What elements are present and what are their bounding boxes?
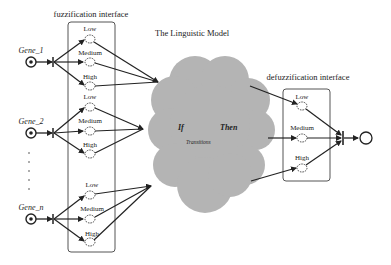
output-low-label: Low bbox=[296, 93, 310, 101]
linguistic-model-cloud: The Linguistic Model If Then Transitions bbox=[148, 28, 275, 213]
output-node bbox=[360, 132, 372, 144]
gene-1-low-node bbox=[85, 35, 95, 43]
model-label: The Linguistic Model bbox=[155, 28, 230, 38]
gene-1-medium-node bbox=[85, 58, 95, 66]
output-high-node bbox=[297, 164, 307, 172]
gene-ellipsis bbox=[28, 152, 30, 190]
gene-2-high-node bbox=[85, 150, 95, 158]
gene-n-low-node bbox=[85, 191, 95, 199]
defuzzification-nodes: Low Medium High bbox=[290, 93, 372, 172]
output-low-node bbox=[297, 102, 307, 110]
transitions-label: Transitions bbox=[186, 139, 211, 145]
gene-2-high-label: High bbox=[83, 141, 98, 149]
gene-n-group: Gene_n Low Medium High bbox=[19, 181, 151, 246]
gene-n-low-label: Low bbox=[86, 181, 100, 189]
gene-n-medium-label: Medium bbox=[80, 205, 104, 213]
fuzzy-model-diagram: fuzzification interface defuzzification … bbox=[0, 0, 391, 265]
gene-n-high-node bbox=[85, 238, 95, 246]
gene-1-high-node bbox=[85, 82, 95, 90]
gene-2-label: Gene_2 bbox=[19, 117, 44, 126]
gene-2-medium-node bbox=[85, 127, 95, 135]
fuzzification-label: fuzzification interface bbox=[54, 9, 129, 19]
gene-2-low-label: Low bbox=[84, 93, 98, 101]
defuzzification-label: defuzzification interface bbox=[267, 72, 350, 82]
gene-1-high-label: High bbox=[83, 73, 98, 81]
gene-1-group: Gene_1 Low Medium High bbox=[19, 25, 158, 90]
gene-2-low-node bbox=[85, 103, 95, 111]
gene-1-medium-label: Medium bbox=[78, 49, 102, 57]
then-label: Then bbox=[220, 123, 238, 132]
gene-1-label: Gene_1 bbox=[19, 46, 44, 55]
gene-2-medium-label: Medium bbox=[78, 117, 102, 125]
output-medium-label: Medium bbox=[290, 124, 314, 132]
gene-n-label: Gene_n bbox=[19, 203, 44, 212]
gene-1-low-label: Low bbox=[84, 25, 98, 33]
output-medium-node bbox=[297, 134, 307, 142]
output-high-label: High bbox=[295, 154, 310, 162]
gene-2-group: Gene_2 Low Medium High bbox=[19, 93, 143, 158]
gene-n-medium-node bbox=[85, 215, 95, 223]
